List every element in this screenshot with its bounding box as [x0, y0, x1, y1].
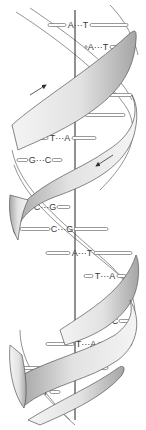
base-pair: T···A	[84, 271, 126, 281]
base-pair-label: A···T	[72, 248, 93, 258]
ribbon-segment-3	[9, 195, 28, 240]
base-rung-right	[57, 206, 70, 209]
base-rung-right	[74, 228, 108, 231]
ribbon-segment-1	[12, 31, 136, 150]
ribbon-segment-6	[10, 345, 27, 408]
base-pair: C···G	[20, 224, 108, 234]
base-pair-label: A···T	[88, 42, 109, 52]
dna-double-helix-diagram: A···TA···TC···GA···TT···AG···CC···GC···G…	[0, 0, 146, 430]
base-pair-label: G···C	[29, 155, 52, 165]
base-rung-right	[72, 137, 96, 140]
base-pair-label: T···A	[95, 271, 116, 281]
base-pair-label: C···G	[51, 224, 74, 234]
base-rung-left	[85, 46, 87, 49]
base-rung-right	[50, 391, 60, 394]
base-pair: G···C	[17, 155, 62, 165]
base-rung-left	[46, 252, 70, 255]
base-rung-left	[84, 275, 93, 278]
base-pair-label: A···T	[68, 20, 89, 30]
base-rung-left	[20, 228, 50, 231]
base-rung-left	[48, 24, 66, 27]
base-rung-right	[52, 159, 62, 162]
base-pair: A···T	[46, 248, 132, 258]
base-rung-right	[85, 114, 125, 117]
base-pair: A···T	[48, 20, 128, 30]
base-pair-label: T···A	[50, 133, 71, 143]
base-rung-left	[17, 159, 28, 162]
base-rung-right	[90, 24, 128, 27]
base-rung-right	[94, 252, 132, 255]
strand-direction-up-arrow-icon	[30, 85, 46, 95]
